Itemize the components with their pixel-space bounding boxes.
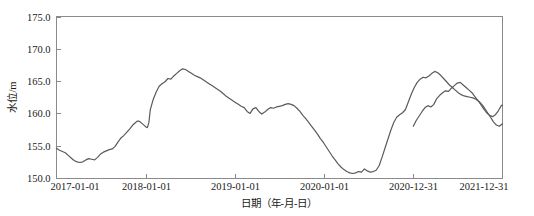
y-tick-label: 175.0 (27, 12, 51, 23)
x-tick-label: 2020-01-01 (300, 181, 349, 192)
y-tick-label: 165.0 (27, 76, 51, 87)
y-tick-label: 155.0 (27, 141, 51, 152)
x-tick-label: 2019-01-01 (211, 181, 260, 192)
x-axis-title: 日期（年-月-日） (241, 197, 318, 209)
y-axis-tick-labels: 150.0155.0160.0165.0170.0175.0 (27, 12, 51, 184)
water-level-line-chart: 150.0155.0160.0165.0170.0175.0 2017-01-0… (0, 0, 534, 216)
x-tick-label: 2020-12-31 (389, 181, 438, 192)
data-series-group (57, 69, 503, 174)
series-line (57, 69, 503, 174)
chart-figure: 150.0155.0160.0165.0170.0175.0 2017-01-0… (0, 0, 534, 216)
x-axis-tick-labels: 2017-01-012018-01-012019-01-012020-01-01… (51, 181, 509, 192)
x-tick-label: 2021-12-31 (460, 181, 509, 192)
plot-frame (57, 17, 503, 179)
series-line (413, 82, 502, 126)
x-axis-ticks (147, 174, 414, 178)
y-tick-label: 160.0 (27, 108, 51, 119)
y-axis-ticks (57, 18, 61, 179)
x-tick-label: 2018-01-01 (122, 181, 171, 192)
y-axis-title: 水位/m (6, 81, 18, 112)
y-tick-label: 150.0 (27, 173, 51, 184)
y-tick-label: 170.0 (27, 44, 51, 55)
x-tick-label: 2017-01-01 (51, 181, 100, 192)
